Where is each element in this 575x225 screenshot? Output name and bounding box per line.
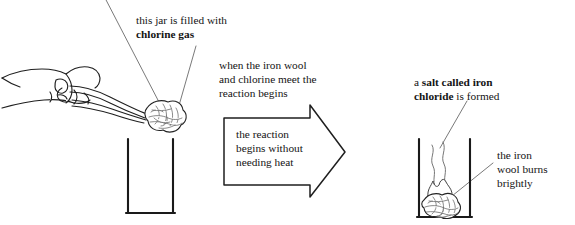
caption-chlorine-gas: this jar is filled with chlorine gas (136, 13, 227, 41)
hand-lower-outline (2, 100, 74, 108)
tong-arm-upper (70, 86, 147, 114)
caption-no-heat-line3: needing heat (236, 155, 303, 169)
leader-line-salt-to-jar (440, 101, 467, 148)
hand-upper-outline (2, 67, 100, 88)
jar-left (126, 139, 175, 213)
caption-burns-brightly-line3: brightly (497, 176, 548, 190)
caption-salt-formed-line1-bold: salt called iron (422, 76, 493, 88)
caption-chlorine-gas-line1: this jar is filled with (136, 13, 227, 27)
iron-wool-right (422, 193, 461, 218)
tongs-figure (57, 86, 147, 123)
caption-no-heat-line1: the reaction (236, 127, 303, 141)
caption-no-heat-needed: the reaction begins without needing heat (236, 127, 303, 170)
hand-knuckle-1 (55, 79, 68, 93)
hand-finger-crease (50, 92, 52, 102)
caption-salt-formed: a salt called iron chloride is formed (414, 75, 499, 103)
caption-no-heat-line2: begins without (236, 141, 303, 155)
caption-salt-formed-line1-plain: a (414, 76, 422, 88)
caption-reaction-begins-line3: reaction begins (219, 86, 317, 100)
caption-chlorine-gas-line2: chlorine gas (136, 28, 194, 40)
leader-line-burns-to-wool (452, 163, 493, 196)
hand-knuckle-2 (58, 95, 67, 99)
caption-burns-brightly-line1: the iron (497, 148, 548, 162)
caption-burns-brightly-line2: wool burns (497, 162, 548, 176)
diagram-canvas: this jar is filled with chlorine gas whe… (0, 0, 575, 225)
caption-reaction-begins-line1: when the iron wool (219, 58, 317, 72)
caption-burns-brightly: the iron wool burns brightly (497, 148, 548, 191)
caption-salt-formed-line2-bold: chloride (414, 90, 454, 102)
caption-reaction-begins: when the iron wool and chlorine meet the… (219, 58, 317, 101)
iron-wool-left (145, 101, 186, 132)
diagram-artwork (0, 0, 575, 225)
caption-salt-formed-line2-plain: is formed (454, 90, 500, 102)
caption-reaction-begins-line2: and chlorine meet the (219, 72, 317, 86)
